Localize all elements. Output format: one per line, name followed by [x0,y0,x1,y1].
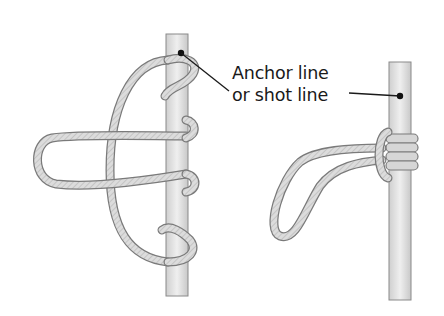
knot-diagram: Anchor line or shot line [0,0,444,316]
right-knot-rope [274,148,382,237]
diagram-svg [0,0,444,316]
label-line-2: or shot line [232,84,329,106]
anchor-line-label: Anchor line or shot line [232,62,329,106]
label-line-1: Anchor line [232,62,329,84]
